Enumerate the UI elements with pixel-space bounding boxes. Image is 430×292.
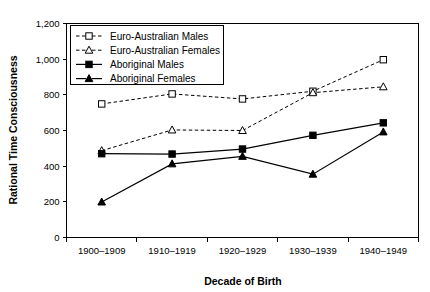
data-point-marker: [169, 151, 175, 157]
y-axis-tick-labels: 02004006008001,0001,200: [36, 18, 60, 243]
data-point-marker: [380, 57, 386, 63]
data-point-marker: [239, 96, 245, 102]
y-tick-label: 1,000: [36, 54, 60, 65]
y-tick-label: 0: [54, 232, 59, 243]
data-point-marker: [380, 120, 386, 126]
legend-item-label: Euro-Australian Males: [110, 31, 208, 42]
data-point-marker: [310, 132, 316, 138]
legend-marker-filled-square-icon: [86, 61, 92, 67]
data-point-marker: [98, 198, 106, 205]
y-axis-ticks: [63, 24, 67, 238]
y-tick-label: 400: [44, 161, 60, 172]
chart-figure: 02004006008001,0001,200 1900–19091910–19…: [0, 0, 430, 292]
y-tick-label: 1,200: [36, 18, 60, 29]
data-point-marker: [239, 152, 247, 159]
x-tick-label: 1900–1909: [78, 245, 126, 256]
y-tick-label: 800: [44, 89, 60, 100]
y-tick-label: 200: [44, 196, 60, 207]
x-axis-title: Decade of Birth: [204, 275, 282, 287]
data-point-marker: [380, 83, 388, 90]
y-tick-label: 600: [44, 125, 60, 136]
legend-item-label: Euro-Australian Females: [110, 45, 220, 56]
x-axis-ticks: [67, 238, 419, 242]
x-tick-label: 1940–1949: [360, 245, 408, 256]
data-point-marker: [239, 146, 245, 152]
legend-item-label: Aboriginal Females: [110, 73, 196, 84]
series-line-3: [102, 132, 384, 202]
legend-marker-open-square-icon: [86, 33, 92, 39]
x-tick-label: 1920–1929: [219, 245, 267, 256]
data-point-marker: [380, 128, 388, 135]
data-point-marker: [169, 91, 175, 97]
x-tick-label: 1930–1939: [289, 245, 337, 256]
data-point-marker: [99, 150, 105, 156]
data-point-marker: [168, 126, 176, 133]
legend-item-label: Aboriginal Males: [110, 59, 184, 70]
y-axis-title: Rational Time Consciousness: [7, 55, 19, 204]
data-point-marker: [99, 101, 105, 107]
x-axis-tick-labels: 1900–19091910–19191920–19291930–19391940…: [78, 245, 407, 256]
x-tick-label: 1910–1919: [148, 245, 196, 256]
line-chart: 02004006008001,0001,200 1900–19091910–19…: [0, 0, 430, 292]
